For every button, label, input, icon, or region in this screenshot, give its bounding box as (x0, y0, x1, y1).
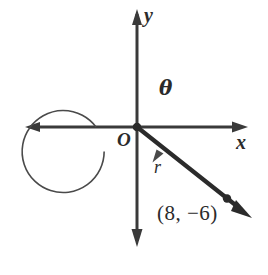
angle-arc-path (22, 111, 104, 193)
radius-label: r (154, 158, 161, 176)
coordinate-plane-svg (0, 0, 268, 275)
x-axis-label: x (236, 132, 246, 152)
y-axis-label: y (144, 5, 153, 25)
y-axis-arrow-up-icon (132, 9, 142, 25)
y-axis-arrow-down-icon (132, 229, 143, 247)
angle-theta-label: θ (159, 78, 172, 98)
terminal-ray-line (137, 127, 238, 207)
angle-arc (22, 111, 163, 193)
origin-point-marker (133, 123, 142, 132)
origin-label: O (117, 130, 131, 149)
point-coordinates-label: (8, −6) (157, 203, 218, 224)
angle-diagram-figure: x y O θ r (8, −6) (0, 0, 268, 275)
plotted-point-marker (223, 194, 231, 202)
